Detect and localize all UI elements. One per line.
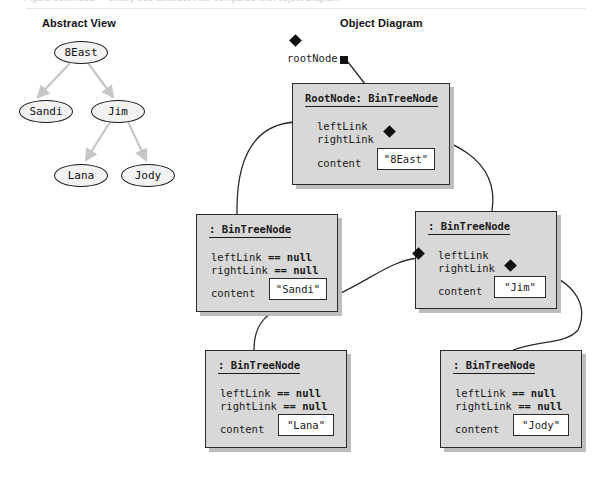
object-field-rightlink: rightLink == null — [211, 264, 319, 276]
object-field-content-label: content — [317, 157, 361, 169]
connector-root-left-to-sandi — [237, 122, 296, 214]
leftlink-name: leftLink — [220, 387, 271, 399]
object-field-content-value: "Jody" — [513, 414, 569, 436]
rightlink-name: rightLink — [455, 400, 512, 412]
object-field-content-value: "Lana" — [278, 414, 334, 436]
object-box-jim[interactable]: : BinTreeNode leftLink rightLink content… — [415, 211, 557, 309]
rightlink-name: rightLink — [220, 400, 277, 412]
object-field-content-label: content — [455, 423, 499, 435]
rightlink-null: == null — [283, 400, 327, 412]
leftlink-name: leftLink — [455, 387, 506, 399]
object-field-rightlink: rightLink == null — [220, 400, 328, 412]
object-field-content-value: "Sandi" — [269, 278, 327, 300]
object-box-title: : BinTreeNode — [209, 223, 291, 238]
object-box-title: RootNode: BinTreeNode — [305, 92, 438, 107]
object-field-content-value: "8East" — [377, 148, 435, 170]
object-field-leftlink: leftLink — [438, 249, 489, 261]
figure-page: Figure continued — binary tree abstract … — [0, 0, 610, 479]
object-field-content-label: content — [438, 285, 482, 297]
object-field-content-label: content — [220, 423, 264, 435]
leftlink-null: == null — [268, 251, 312, 263]
object-field-leftlink: leftLink == null — [455, 387, 556, 399]
leftlink-null: == null — [512, 387, 556, 399]
rightlink-null: == null — [518, 400, 562, 412]
object-box-root[interactable]: RootNode: BinTreeNode leftLink rightLink… — [292, 83, 450, 185]
object-field-rightlink: rightLink — [317, 133, 374, 145]
rootnode-pointer-label: rootNode — [287, 52, 338, 64]
rootnode-pointer-square — [340, 56, 348, 64]
object-field-leftlink: leftLink — [317, 120, 368, 132]
object-field-content-label: content — [211, 287, 255, 299]
object-box-title: : BinTreeNode — [453, 359, 535, 374]
object-box-lana[interactable]: : BinTreeNode leftLink == null rightLink… — [205, 350, 347, 448]
rightlink-null: == null — [274, 264, 318, 276]
leftlink-null: == null — [277, 387, 321, 399]
rightlink-name: rightLink — [211, 264, 268, 276]
object-box-title: : BinTreeNode — [428, 220, 510, 235]
leftlink-name: leftLink — [211, 251, 262, 263]
object-field-leftlink: leftLink == null — [211, 251, 312, 263]
object-field-rightlink: rightLink == null — [455, 400, 563, 412]
object-box-sandi[interactable]: : BinTreeNode leftLink == null rightLink… — [196, 214, 338, 312]
object-field-rightlink: rightLink — [438, 262, 495, 274]
connector-rootnode-to-root — [348, 62, 365, 84]
object-box-jody[interactable]: : BinTreeNode leftLink == null rightLink… — [440, 350, 582, 448]
object-field-content-value: "Jim" — [494, 276, 546, 298]
object-field-leftlink: leftLink == null — [220, 387, 321, 399]
object-box-title: : BinTreeNode — [218, 359, 300, 374]
